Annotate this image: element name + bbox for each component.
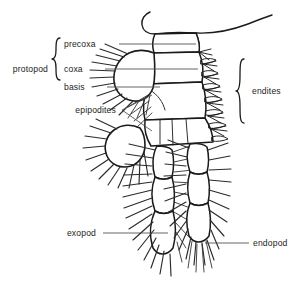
figure-root: protopod precoxa coxa basis epipodites e… <box>0 0 303 300</box>
label-endopod: endopod <box>253 238 288 248</box>
endites-bracket <box>236 59 244 123</box>
epipodite-lobe-upper <box>114 50 155 101</box>
basis-distal-plate <box>145 118 213 146</box>
endopod-article-3 <box>187 203 211 242</box>
endite-spine-4 <box>205 87 221 97</box>
appendage-diagram: protopod precoxa coxa basis epipodites e… <box>0 0 303 300</box>
label-endites: endites <box>252 86 281 96</box>
endopod-article-2 <box>188 172 210 205</box>
flagellum-curve <box>142 12 155 34</box>
label-exopod: exopod <box>67 228 96 238</box>
label-precoxa: precoxa <box>64 39 96 49</box>
endite-spine-6 <box>208 113 224 123</box>
endite-spine-7 <box>211 126 227 136</box>
endite-spine-2 <box>203 61 217 71</box>
label-coxa: coxa <box>64 64 83 74</box>
endopod-setae-right <box>208 143 231 249</box>
endite-spine-3 <box>204 74 219 84</box>
label-basis: basis <box>64 82 85 92</box>
body-wall-top-edge <box>155 15 272 34</box>
exopod-article-1 <box>153 146 174 179</box>
label-epipodites: epipodites <box>75 105 116 115</box>
label-protopod: protopod <box>13 64 48 74</box>
endite-spine-5 <box>207 100 223 110</box>
endopod-article-1 <box>187 144 208 175</box>
coxa-segment <box>147 52 203 84</box>
endite-lobe-7 <box>212 136 228 141</box>
protopod-bracket <box>52 38 60 80</box>
protopod-segments-group <box>144 33 213 146</box>
exopod-article-2 <box>152 177 174 213</box>
exopod-article-3 <box>151 211 176 254</box>
precoxa-segment <box>153 33 200 53</box>
